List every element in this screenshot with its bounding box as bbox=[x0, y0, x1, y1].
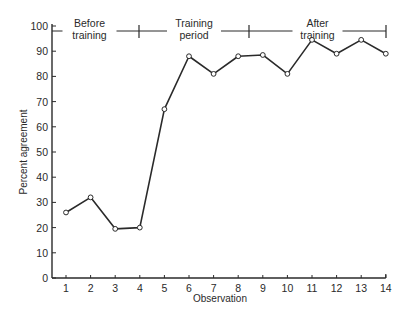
data-point-marker bbox=[137, 225, 142, 230]
data-point-marker bbox=[383, 51, 388, 56]
phase-label: training bbox=[300, 29, 335, 41]
y-tick-label: 60 bbox=[36, 121, 48, 133]
phase-label: Training bbox=[175, 17, 213, 29]
y-tick-label: 90 bbox=[36, 45, 48, 57]
axes: 0102030405060708090100123456789101112131… bbox=[30, 20, 391, 294]
phase-label: Before bbox=[74, 17, 105, 29]
line-chart: 0102030405060708090100123456789101112131… bbox=[0, 0, 409, 318]
data-series bbox=[64, 37, 389, 231]
phase-label: period bbox=[179, 29, 208, 41]
data-point-marker bbox=[162, 107, 167, 112]
data-point-marker bbox=[310, 37, 315, 42]
x-tick-label: 10 bbox=[282, 282, 294, 294]
phase-label: training bbox=[72, 29, 107, 41]
y-tick-label: 10 bbox=[36, 247, 48, 259]
y-tick-label: 0 bbox=[42, 272, 48, 284]
y-tick-label: 20 bbox=[36, 222, 48, 234]
x-tick-label: 5 bbox=[161, 282, 167, 294]
y-axis-title: Percent agreement bbox=[18, 109, 29, 194]
data-point-marker bbox=[285, 71, 290, 76]
y-tick-label: 30 bbox=[36, 196, 48, 208]
x-tick-label: 6 bbox=[186, 282, 192, 294]
phase-label: After bbox=[306, 17, 329, 29]
x-tick-label: 13 bbox=[355, 282, 367, 294]
x-tick-label: 3 bbox=[112, 282, 118, 294]
data-point-marker bbox=[88, 195, 93, 200]
data-point-marker bbox=[334, 51, 339, 56]
x-tick-label: 9 bbox=[260, 282, 266, 294]
phase-annotations: BeforetrainingTrainingperiodAftertrainin… bbox=[52, 17, 386, 41]
data-point-marker bbox=[64, 210, 69, 215]
data-point-marker bbox=[211, 71, 216, 76]
x-axis-title: Observation bbox=[193, 293, 247, 304]
data-point-marker bbox=[359, 37, 364, 42]
y-tick-label: 50 bbox=[36, 146, 48, 158]
y-tick-label: 70 bbox=[36, 96, 48, 108]
y-tick-label: 40 bbox=[36, 171, 48, 183]
x-tick-label: 12 bbox=[331, 282, 343, 294]
data-point-marker bbox=[187, 54, 192, 59]
x-tick-label: 2 bbox=[88, 282, 94, 294]
data-point-marker bbox=[236, 54, 241, 59]
x-tick-label: 4 bbox=[137, 282, 143, 294]
x-tick-label: 1 bbox=[63, 282, 69, 294]
x-tick-label: 11 bbox=[307, 282, 318, 294]
data-point-marker bbox=[113, 226, 118, 231]
series-line bbox=[66, 40, 386, 229]
y-tick-label: 80 bbox=[36, 70, 48, 82]
data-point-marker bbox=[260, 53, 265, 58]
y-tick-label: 100 bbox=[30, 20, 48, 32]
x-tick-label: 14 bbox=[380, 282, 392, 294]
